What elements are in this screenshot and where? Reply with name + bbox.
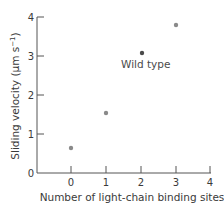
y-tick-label: 4 (28, 12, 34, 23)
x-tick-label: 2 (138, 177, 144, 188)
y-axis-label: Sliding velocity (µm s−1) (9, 32, 21, 159)
data-point (104, 111, 108, 115)
x-tick-label: 4 (207, 177, 213, 188)
y-ticks: 4 3 2 1 0 (28, 12, 44, 179)
wild-type-annotation: Wild type (121, 58, 170, 70)
data-point (69, 146, 73, 150)
axes (37, 17, 211, 173)
y-tick-label: 0 (28, 168, 34, 179)
data-point-wild-type (140, 51, 144, 55)
x-ticks: 0 1 2 3 4 (68, 166, 213, 188)
x-tick-label: 0 (68, 177, 74, 188)
x-tick-label: 1 (103, 177, 109, 188)
y-tick-label: 1 (28, 129, 34, 140)
x-tick-label: 3 (173, 177, 179, 188)
data-point (174, 23, 178, 27)
y-tick-label: 2 (28, 90, 34, 101)
y-tick-label: 3 (28, 51, 34, 62)
chart: 4 3 2 1 0 0 1 2 3 4 Number of light-chai… (0, 0, 224, 212)
data-points (69, 23, 178, 150)
x-axis-label: Number of light-chain binding sites (40, 191, 224, 203)
